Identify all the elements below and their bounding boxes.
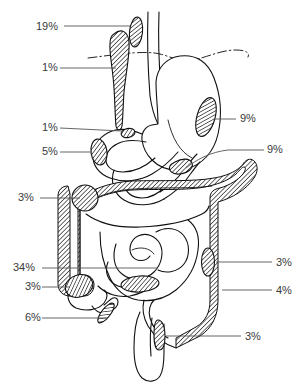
label-esophagus-mid: 1%: [42, 61, 58, 73]
label-descending-colon: 3%: [276, 256, 292, 268]
label-sigmoid-colon: 4%: [276, 284, 292, 296]
label-rectum: 3%: [245, 330, 261, 342]
lesion-esophagus-upper: [128, 16, 144, 47]
lesion-ge-junction: [120, 127, 136, 139]
label-gastric-antrum: 9%: [267, 143, 283, 155]
leader-ge-junction: [60, 128, 122, 131]
lesion-appendix: [95, 301, 117, 325]
small-intestine-loop-d: [132, 248, 154, 254]
label-appendix: 6%: [25, 311, 41, 323]
label-ge-junction: 1%: [42, 121, 58, 133]
label-gastric-fundus: 9%: [240, 112, 256, 124]
label-esophagus-upper: 19%: [36, 20, 58, 32]
label-hepatic-flexure: 3%: [18, 191, 34, 203]
percent-labels-left: 19% 1% 1% 5% 3% 34% 3% 6%: [13, 20, 58, 323]
label-duodenum: 5%: [42, 145, 58, 157]
transverse-colon-lower: [86, 206, 209, 227]
percent-labels-right: 9% 9% 3% 4% 3%: [240, 112, 292, 342]
gi-tract-illustration: 19% 1% 1% 5% 3% 34% 3% 6% 9% 9% 3% 4% 3%: [0, 0, 306, 389]
lesion-rectum: [154, 320, 165, 350]
small-intestine-loop-b: [156, 229, 189, 272]
rectum-outline-right: [150, 318, 152, 356]
lesion-descending-colon: [202, 248, 215, 276]
small-intestine-loop-a: [114, 234, 162, 279]
lesion-small-intestine: [120, 275, 159, 294]
lesion-esophagus-body: [110, 31, 129, 130]
label-cecum: 3%: [25, 280, 41, 292]
label-small-intestine: 34%: [13, 261, 35, 273]
gi-tract-diagram: 19% 1% 1% 5% 3% 34% 3% 6% 9% 9% 3% 4% 3%: [0, 0, 306, 389]
esophagus-outline: [148, 12, 158, 124]
